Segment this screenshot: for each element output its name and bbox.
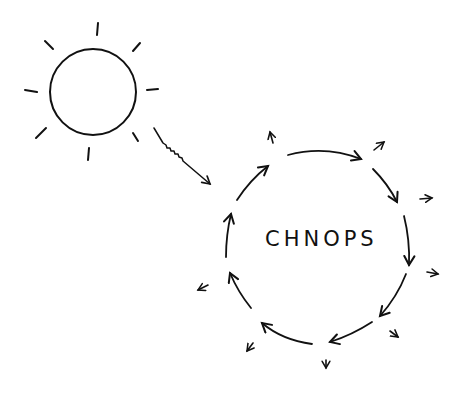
energy-arrow — [154, 128, 210, 184]
sun — [25, 23, 158, 160]
chnops-diagram — [0, 0, 463, 393]
center-label: CHNOPS — [265, 227, 378, 251]
sun-rays — [25, 23, 158, 160]
sun-circle — [50, 49, 136, 135]
